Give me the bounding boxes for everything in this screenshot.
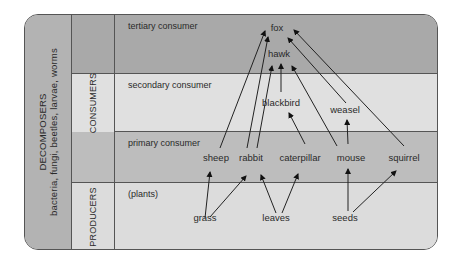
arrow-squirrel-fox (294, 30, 404, 146)
node-hawk: hawk (268, 48, 290, 59)
arrow-caterpillar-blackbird (289, 113, 305, 144)
arrow-seeds-squirrel (353, 171, 396, 212)
node-weasel: weasel (330, 104, 360, 115)
arrow-rabbit-fox (247, 37, 268, 148)
node-seeds: seeds (332, 212, 357, 223)
node-sheep: sheep (203, 152, 229, 163)
arrow-weasel-fox (288, 38, 346, 103)
node-caterpillar: caterpillar (279, 152, 320, 163)
arrow-leaves-rabbit (261, 175, 276, 213)
food-web-arrows (0, 0, 457, 263)
node-grass: grass (193, 212, 216, 223)
arrow-mouse-weasel (347, 120, 348, 144)
node-blackbird: blackbird (262, 97, 300, 108)
arrow-grass-rabbit (210, 176, 246, 217)
node-squirrel: squirrel (388, 152, 419, 163)
node-fox: fox (271, 22, 284, 33)
node-leaves: leaves (262, 212, 289, 223)
arrow-leaves-caterpillar (282, 174, 298, 213)
node-mouse: mouse (337, 152, 366, 163)
node-rabbit: rabbit (239, 152, 263, 163)
